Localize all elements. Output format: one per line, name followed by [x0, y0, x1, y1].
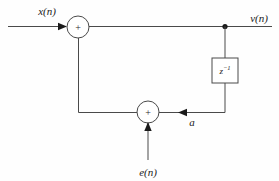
arrowhead-input-e — [144, 122, 151, 131]
label-input-x: x(n) — [37, 5, 56, 18]
arrowhead-input-x — [58, 23, 67, 30]
label-input-e: e(n) — [139, 166, 157, 179]
delay-exponent: −1 — [223, 64, 231, 71]
arrowhead-feedback-a — [178, 109, 187, 116]
summing-node-bottom-sign: + — [145, 107, 151, 118]
diagram-svg: + z−1 + x(n) v(n) a e(n) — [0, 0, 279, 181]
label-output-v: v(n) — [250, 12, 268, 25]
summing-node-top-sign: + — [75, 22, 81, 33]
label-feedback-a: a — [189, 116, 195, 128]
block-diagram-canvas: + z−1 + x(n) v(n) a e(n) — [0, 0, 279, 181]
